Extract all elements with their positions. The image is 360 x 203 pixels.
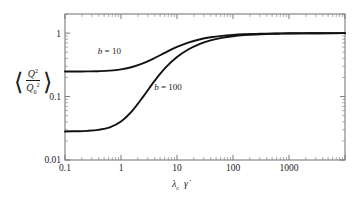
plot-frame (65, 14, 345, 160)
curve-label: b = 100 (154, 82, 182, 92)
y-axis-title: ⟨ Q2 Q02 ⟩ (6, 68, 60, 96)
x-tick-label: 100 (226, 163, 241, 173)
y-tick-label: 0.01 (44, 155, 61, 165)
y-tick-label: 1 (56, 29, 61, 39)
angle-bracket-close-icon: ⟩ (43, 70, 52, 94)
angle-bracket-open-icon: ⟨ (14, 70, 23, 94)
y-axis-denominator: Q02 (24, 81, 41, 96)
log-log-plot: 0.1110100100010.10.01 b = 10b = 100 (0, 0, 360, 203)
curve-annotations: b = 10b = 100 (98, 46, 182, 92)
chart-figure: 0.1110100100010.10.01 b = 10b = 100 ⟨ Q2… (0, 0, 360, 203)
minor-tick-marks (65, 14, 345, 160)
x-axis-lambda: λc (172, 178, 179, 189)
major-tick-marks (65, 14, 345, 160)
x-tick-label: 10 (172, 163, 182, 173)
x-tick-label: 1 (119, 163, 124, 173)
curve-label: b = 10 (98, 46, 122, 56)
y-axis-fraction: Q2 Q02 (24, 68, 41, 96)
x-axis-title: λc γ̇ (0, 178, 360, 191)
x-axis-gamma-dot: γ̇ (182, 178, 188, 189)
x-tick-label: 1000 (280, 163, 299, 173)
y-axis-numerator: Q2 (26, 68, 40, 81)
